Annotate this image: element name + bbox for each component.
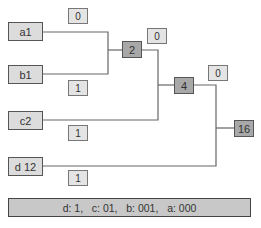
edge-label-a-0: 0 [68,8,88,24]
node-weight: 2 [129,44,135,56]
edge-label-d-1: 1 [68,170,88,186]
edge-label-2-0: 0 [147,28,167,44]
edge-label-c-1: 1 [68,125,88,141]
internal-node-4: 4 [174,77,194,94]
leaf-node-c: c2 [8,111,43,130]
internal-node-2: 2 [122,41,142,58]
root-node-16: 16 [234,120,254,137]
code-summary-text: d: 1, c: 01, b: 001, a: 000 [63,202,197,214]
leaf-label: b1 [19,69,31,81]
leaf-node-d: d 12 [8,157,43,176]
leaf-label: d 12 [15,161,36,173]
code-summary-bar: d: 1, c: 01, b: 001, a: 000 [8,198,251,217]
leaf-node-a: a1 [8,22,43,41]
leaf-label: c2 [20,115,32,127]
edge-label-b-1: 1 [68,80,88,96]
leaf-label: a1 [19,26,31,38]
leaf-node-b: b1 [8,65,43,84]
node-weight: 16 [238,123,250,135]
edge-label-4-0: 0 [208,65,228,81]
node-weight: 4 [181,80,187,92]
